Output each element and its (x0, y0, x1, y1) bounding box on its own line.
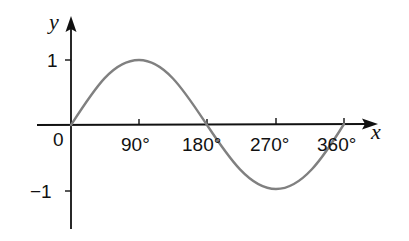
x-tick-label-270: 270° (250, 134, 289, 155)
x-tick-label-180: 180° (182, 134, 221, 155)
y-axis-label: y (47, 9, 59, 34)
y-tick-label-1: 1 (47, 50, 58, 71)
x-axis (37, 124, 368, 125)
origin-label: 0 (53, 129, 64, 150)
y-tick-label-neg1: −1 (30, 181, 52, 202)
sine-chart: 0 90° 180° 270° 360° 1 −1 x y (0, 0, 409, 241)
x-tick-label-90: 90° (121, 134, 150, 155)
x-axis-label: x (370, 119, 381, 144)
x-tick-label-360: 360° (317, 134, 356, 155)
